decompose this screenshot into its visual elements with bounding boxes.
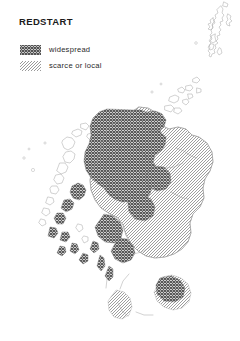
legend: widespread scarce or local [20, 43, 130, 75]
legend-label-scarce-or-local: scarce or local [49, 61, 102, 70]
legend-item-widespread: widespread [20, 43, 130, 56]
distribution-map-page: REDSTART widespread scarce or local [0, 0, 240, 341]
legend-label-widespread: widespread [49, 45, 90, 54]
legend-item-scarce-or-local: scarce or local [20, 59, 130, 72]
outer-hebrides [23, 123, 99, 226]
orkney-islands [151, 77, 201, 118]
shetland-islands [195, 2, 232, 57]
legend-swatch-scarce-icon [20, 61, 41, 71]
page-title: REDSTART [19, 16, 73, 27]
legend-swatch-widespread-icon [20, 45, 41, 55]
